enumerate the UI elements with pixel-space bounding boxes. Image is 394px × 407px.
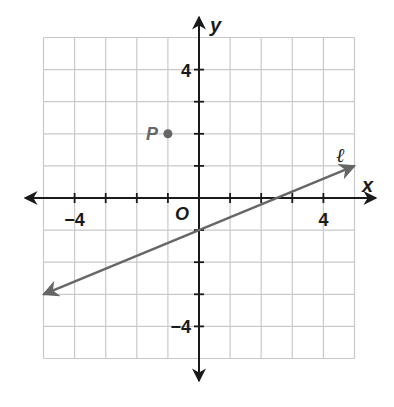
coordinate-plane: x y O ℓ P −4 4 4 −4 xyxy=(0,0,394,407)
point-label: P xyxy=(146,124,159,144)
x-axis-label: x xyxy=(361,174,374,196)
x-tick-label-neg4: −4 xyxy=(64,210,85,230)
y-axis-label: y xyxy=(209,14,222,36)
line-label: ℓ xyxy=(336,144,345,166)
axis-labels: x y O ℓ P −4 4 4 −4 xyxy=(64,14,374,337)
y-tick-label-neg4: −4 xyxy=(170,317,191,337)
point-p xyxy=(163,129,172,138)
x-tick-label-4: 4 xyxy=(318,210,328,230)
y-tick-label-4: 4 xyxy=(181,61,191,81)
origin-label: O xyxy=(175,204,189,224)
